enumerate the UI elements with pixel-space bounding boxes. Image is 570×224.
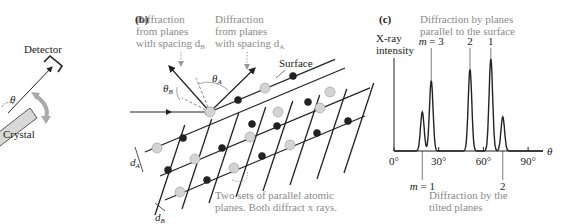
y-axis-label-line2: intensity — [376, 44, 414, 56]
peak-label: 1 — [488, 35, 494, 47]
atom-black — [165, 167, 172, 174]
top-note-line1: Diffraction by planes — [420, 13, 513, 25]
detector-icon — [44, 56, 62, 72]
atom-gray — [260, 83, 270, 93]
peak-label: m = 3 — [419, 35, 445, 47]
atom-black — [345, 118, 352, 125]
atom-black — [290, 73, 297, 80]
x-tick-label: 30° — [431, 155, 446, 167]
x-tick-label: 0° — [389, 155, 399, 167]
y-axis-label-line1: X-ray — [376, 32, 402, 44]
atom-gray — [190, 154, 200, 164]
panel-c-label: (c) — [379, 13, 392, 26]
intensity-curve — [394, 59, 543, 151]
note-b-line1: Diffraction — [136, 13, 185, 25]
figure: Detector Crystal θ (b) Diffraction from … — [0, 0, 570, 224]
theta-b-arc — [177, 87, 180, 100]
atom-gray — [229, 163, 239, 173]
crystal-label: Crystal — [3, 128, 35, 140]
caption-line1: Two sets of parallel atomic — [215, 189, 334, 201]
atom-black — [274, 123, 281, 130]
atom-gray — [325, 87, 335, 97]
chart: θ0°30°60°90°m = 1m = 3212 — [389, 35, 553, 192]
panel-c: (c) Diffraction by planes parallel to th… — [376, 13, 553, 213]
panel-b: (b) Diffraction from planes with spacing… — [130, 13, 374, 224]
atom-gray — [175, 187, 185, 197]
rotation-arrowhead-down-icon — [41, 116, 51, 124]
bottom-note-line1: Diffraction by the — [429, 189, 508, 201]
atom-black — [305, 99, 312, 106]
d-b-label: dB — [155, 211, 166, 224]
lattice-plane-b — [182, 119, 212, 209]
surface-pointer — [276, 70, 285, 78]
theta-label: θ — [10, 93, 16, 105]
rotation-arrow-icon — [36, 96, 47, 118]
atom-gray — [315, 103, 325, 113]
atom-gray — [245, 132, 255, 142]
detector-label: Detector — [24, 43, 62, 55]
caption-line2: planes. Both diffract x rays. — [215, 201, 337, 213]
note-a-line1: Diffraction — [215, 13, 264, 25]
theta-a-label: θA — [212, 72, 222, 86]
atom-gray — [285, 140, 295, 150]
atom-black — [314, 130, 321, 137]
theta-b-label: θB — [163, 82, 173, 96]
atom-black — [180, 135, 187, 142]
peak-label: 2 — [467, 35, 473, 47]
panel-a: Detector Crystal θ — [0, 43, 62, 146]
note-b-line2: from planes — [136, 25, 188, 37]
note-b-line3: with spacing dB — [136, 37, 205, 51]
atom-black — [219, 145, 226, 152]
note-a-line3: with spacing dA — [215, 37, 284, 51]
x-axis-label: θ — [547, 145, 553, 157]
atom-black — [235, 97, 242, 104]
atom-gray — [205, 107, 215, 117]
atom-gray — [152, 143, 162, 153]
atom-black — [249, 121, 256, 128]
crystal — [0, 108, 37, 146]
x-tick-label: 90° — [520, 155, 535, 167]
normal-a — [196, 78, 210, 112]
atom-black — [204, 177, 211, 184]
atom-black — [259, 153, 266, 160]
x-tick-label: 60° — [476, 155, 491, 167]
note-a-line2: from planes — [215, 25, 267, 37]
incident-beam-arrow-icon — [166, 109, 172, 115]
diffracted-beam-b — [169, 66, 210, 112]
surface-label: Surface — [279, 57, 313, 69]
atom-gray — [273, 107, 283, 117]
bottom-note-line2: tilted planes — [429, 201, 482, 213]
